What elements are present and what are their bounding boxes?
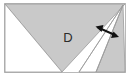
geometry-figure: D [0, 0, 132, 80]
figure-container: D [0, 0, 132, 80]
region-label-d: D [63, 30, 72, 45]
